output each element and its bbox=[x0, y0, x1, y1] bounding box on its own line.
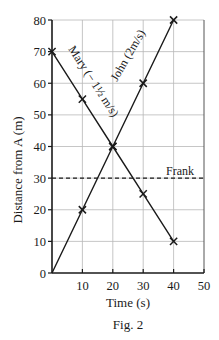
y-tick-label: 70 bbox=[34, 45, 47, 59]
x-axis-label: Time (s) bbox=[106, 295, 150, 310]
distance-time-chart: 01020304050607080 1020304050 John (2m/s)… bbox=[0, 0, 219, 340]
y-tick-label: 20 bbox=[34, 203, 47, 217]
y-tick-label: 50 bbox=[34, 108, 47, 122]
x-tick-label: 20 bbox=[107, 279, 120, 293]
x-tick-label: 40 bbox=[167, 279, 180, 293]
y-axis-label: Distance from A (m) bbox=[10, 116, 25, 223]
frank-label: Frank bbox=[166, 164, 194, 178]
y-tick-label: 80 bbox=[34, 14, 47, 28]
john-label: John (2m/s) bbox=[107, 27, 148, 83]
x-tick-label: 50 bbox=[198, 279, 211, 293]
y-tick-label: 10 bbox=[34, 235, 47, 249]
y-tick-label: 30 bbox=[34, 172, 47, 186]
figure-caption: Fig. 2 bbox=[113, 317, 143, 332]
y-tick-label: 60 bbox=[34, 77, 47, 91]
x-tick-label: 10 bbox=[76, 279, 89, 293]
y-tick-label: 0 bbox=[40, 267, 46, 281]
y-tick-label: 40 bbox=[34, 140, 47, 154]
mary-label: Mary (− 1½ m/s) bbox=[65, 43, 121, 119]
x-tick-label: 30 bbox=[137, 279, 150, 293]
